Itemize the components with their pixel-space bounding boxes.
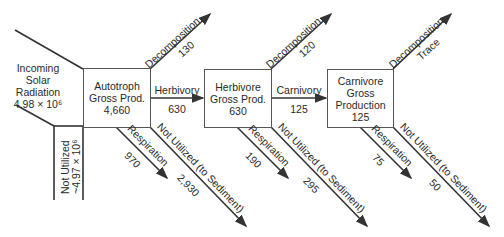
herbivory-label: Herbivory (150, 84, 204, 96)
carnivore-title-2: Gross (346, 87, 374, 99)
autotroph-title-1: Autotroph (94, 80, 140, 92)
carnivore-title-3: Production (335, 99, 385, 111)
herbivory-value: 630 (150, 103, 204, 115)
herbivore-box: Herbivore Gross Prod. 630 (204, 69, 272, 128)
carnivore-box: Carnivore Gross Production 125 (327, 69, 394, 128)
autotroph-box: Autotroph Gross Prod. 4,660 (83, 68, 151, 128)
autotroph-title-2: Gross Prod. (89, 92, 145, 104)
not-utilized-source-label: Not Utilized ~4.97 × 10⁶ (60, 139, 82, 194)
solar-label-line-2: Solar (2, 74, 74, 86)
carnivore-title-1: Carnivore (338, 75, 384, 87)
herbivore-title-1: Herbivore (215, 81, 261, 93)
herbivore-value: 630 (229, 105, 247, 117)
not-utilized-arrow-3 (393, 127, 489, 226)
solar-label-line-1: Incoming (2, 62, 74, 74)
carnivory-label: Carnivory (271, 84, 327, 96)
carnivore-value: 125 (352, 111, 370, 123)
carnivory-value: 125 (271, 103, 327, 115)
herbivore-title-2: Gross Prod. (210, 93, 266, 105)
autotroph-value: 4,660 (104, 104, 130, 116)
not-utilized-source-value: ~4.97 × 10⁶ (71, 139, 82, 194)
solar-radiation-value: 4.98 × 10⁶ (2, 98, 74, 110)
solar-radiation-label: Incoming Solar Radiation 4.98 × 10⁶ (2, 62, 74, 110)
solar-label-line-3: Radiation (2, 86, 74, 98)
